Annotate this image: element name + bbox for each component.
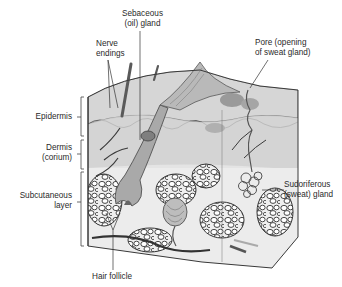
label-pore: Pore (opening of sweat gland)	[255, 38, 311, 57]
dermis-layer	[88, 115, 298, 170]
label-subcutaneous: Subcutaneous layer	[20, 191, 72, 210]
label-sebaceous-gland: Sebaceous (oil) gland	[122, 9, 163, 28]
label-line: Sudoriferous	[284, 180, 333, 190]
label-line: Pore (opening	[255, 38, 311, 48]
sebaceous-gland-shape	[141, 131, 155, 141]
label-line: Sebaceous	[122, 9, 163, 19]
label-hair-follicle: Hair follicle	[92, 272, 132, 282]
layer-brackets	[77, 97, 84, 246]
label-line: layer	[20, 201, 72, 211]
label-line: endings	[96, 49, 125, 59]
label-nerve-endings: Nerve endings	[96, 39, 125, 58]
label-sudoriferous-gland: Sudoriferous (sweat) gland	[284, 180, 333, 199]
label-line: (corium)	[42, 153, 72, 163]
label-dermis: Dermis (corium)	[42, 143, 72, 162]
label-line: Dermis	[42, 143, 72, 153]
label-line: Hair follicle	[92, 272, 132, 282]
label-line: Epidermis	[36, 112, 72, 122]
label-line: of sweat gland)	[255, 48, 311, 58]
label-line: (oil) gland	[122, 19, 163, 29]
leader-pore	[250, 60, 268, 88]
label-line: Nerve	[96, 39, 125, 49]
label-epidermis: Epidermis	[36, 112, 72, 122]
label-line: Subcutaneous	[20, 191, 72, 201]
label-line: (sweat) gland	[284, 190, 333, 200]
